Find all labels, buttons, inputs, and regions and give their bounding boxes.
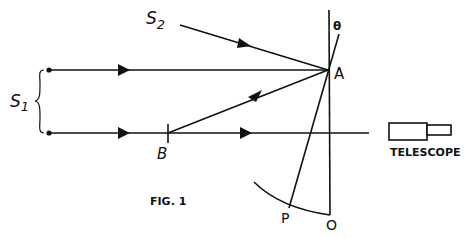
arrow-top (118, 64, 130, 76)
label-b: B (157, 145, 167, 163)
figure-caption: FIG. 1 (150, 195, 186, 208)
arrow-bottom-1 (118, 127, 130, 139)
label-s1: S1 (10, 91, 29, 114)
ray-reflected (168, 70, 328, 133)
s1-brace (35, 70, 44, 133)
vertical-axis (329, 10, 330, 215)
label-a: A (334, 65, 345, 83)
arrow-bottom-2 (240, 127, 252, 139)
label-p: P (281, 210, 289, 226)
ray-s2 (180, 25, 328, 70)
label-s2: S2 (146, 8, 165, 32)
label-theta: θ (333, 19, 341, 33)
label-telescope: TELESCOPE (390, 146, 460, 159)
optics-diagram: S2 S1 θ A B P O TELESCOPE FIG. 1 (0, 0, 464, 238)
telescope-icon (389, 123, 451, 140)
label-o: O (326, 217, 337, 233)
